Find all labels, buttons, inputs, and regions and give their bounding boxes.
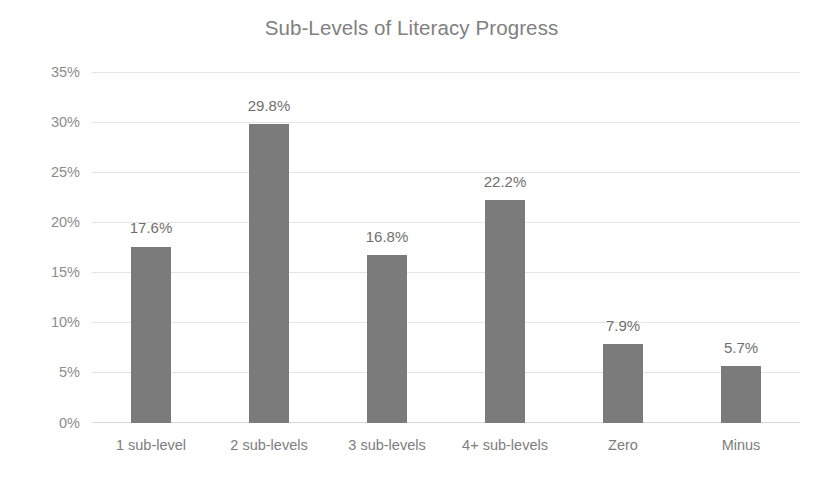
- gridline: [92, 72, 800, 73]
- bar-value-label: 29.8%: [224, 97, 314, 114]
- bar-value-label: 7.9%: [578, 317, 668, 334]
- y-tick-label: 0%: [20, 415, 80, 431]
- gridline: [92, 322, 800, 323]
- bar[interactable]: [721, 366, 761, 423]
- bar[interactable]: [131, 247, 171, 424]
- gridline: [92, 172, 800, 173]
- y-tick-label: 20%: [20, 214, 80, 230]
- bar[interactable]: [485, 200, 525, 423]
- gridline: [92, 272, 800, 273]
- bar-value-label: 5.7%: [696, 339, 786, 356]
- x-tick-label: Minus: [671, 437, 811, 453]
- chart-title: Sub-Levels of Literacy Progress: [0, 16, 823, 40]
- y-tick-label: 15%: [20, 264, 80, 280]
- y-tick-label: 25%: [20, 164, 80, 180]
- y-axis: 35% 30% 25% 20% 15% 10% 5% 0%: [12, 72, 80, 423]
- gridline: [92, 372, 800, 373]
- x-axis-line: [92, 422, 800, 423]
- gridline: [92, 222, 800, 223]
- gridline: [92, 122, 800, 123]
- bar-value-label: 17.6%: [106, 219, 196, 236]
- y-tick-label: 30%: [20, 114, 80, 130]
- y-tick-label: 5%: [20, 364, 80, 380]
- bar-chart: Sub-Levels of Literacy Progress 35% 30% …: [0, 0, 823, 490]
- bar[interactable]: [603, 344, 643, 423]
- bar-value-label: 16.8%: [342, 228, 432, 245]
- bar-value-label: 22.2%: [460, 173, 550, 190]
- plot-area: [92, 72, 800, 423]
- y-tick-label: 35%: [20, 64, 80, 80]
- y-tick-label: 10%: [20, 314, 80, 330]
- bar[interactable]: [367, 255, 407, 424]
- bar[interactable]: [249, 124, 289, 423]
